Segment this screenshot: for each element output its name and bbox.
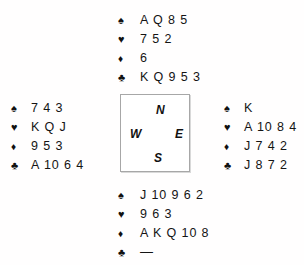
hand-west-diamonds: 9 5 3 <box>31 140 63 153</box>
diamond-icon: ♦ <box>118 54 133 64</box>
club-icon: ♣ <box>118 247 133 258</box>
hand-north-hearts-row: ♥ 7 5 2 <box>118 30 201 49</box>
hand-east-spades-row: ♠ K <box>224 99 297 118</box>
bridge-deal-diagram: ♠ A Q 8 5 ♥ 7 5 2 ♦ 6 ♣ K Q 9 5 3 ♠ 7 4 … <box>0 0 304 265</box>
hand-east-spades: K <box>244 102 253 115</box>
heart-icon: ♥ <box>118 34 133 45</box>
spade-icon: ♠ <box>118 15 133 26</box>
diamond-icon: ♦ <box>11 142 26 152</box>
compass-label-north: N <box>156 104 165 116</box>
compass-label-south: S <box>154 152 162 164</box>
diamond-icon: ♦ <box>118 229 133 239</box>
club-icon: ♣ <box>11 160 26 171</box>
hand-north-diamonds: 6 <box>140 52 148 65</box>
hand-west-clubs-row: ♣ A 10 6 4 <box>11 156 84 175</box>
hand-east-diamonds: J 7 4 2 <box>244 140 288 153</box>
hand-east: ♠ K ♥ A 10 8 4 ♦ J 7 4 2 ♣ J 8 7 2 <box>224 99 297 175</box>
spade-icon: ♠ <box>118 190 133 201</box>
compass-box: N W E S <box>120 94 190 172</box>
hand-west-diamonds-row: ♦ 9 5 3 <box>11 137 84 156</box>
hand-south: ♠ J 10 9 6 2 ♥ 9 6 3 ♦ A K Q 10 8 ♣ — <box>118 186 209 262</box>
hand-west-spades: 7 4 3 <box>31 102 63 115</box>
club-icon: ♣ <box>118 72 133 83</box>
hand-west-hearts-row: ♥ K Q J <box>11 118 84 137</box>
hand-north-hearts: 7 5 2 <box>140 33 172 46</box>
hand-west-hearts: K Q J <box>31 121 67 134</box>
hand-north-spades-row: ♠ A Q 8 5 <box>118 11 201 30</box>
heart-icon: ♥ <box>118 209 133 220</box>
hand-north: ♠ A Q 8 5 ♥ 7 5 2 ♦ 6 ♣ K Q 9 5 3 <box>118 11 201 87</box>
hand-south-clubs: — <box>140 245 153 258</box>
heart-icon: ♥ <box>11 122 26 133</box>
hand-east-clubs: J 8 7 2 <box>244 159 288 172</box>
hand-east-hearts: A 10 8 4 <box>244 121 297 134</box>
hand-south-spades: J 10 9 6 2 <box>140 189 204 202</box>
hand-west: ♠ 7 4 3 ♥ K Q J ♦ 9 5 3 ♣ A 10 6 4 <box>11 99 84 175</box>
hand-east-diamonds-row: ♦ J 7 4 2 <box>224 137 297 156</box>
compass-label-east: E <box>175 128 183 140</box>
spade-icon: ♠ <box>224 103 239 114</box>
hand-south-hearts: 9 6 3 <box>140 208 172 221</box>
spade-icon: ♠ <box>11 103 26 114</box>
hand-south-clubs-row: ♣ — <box>118 243 209 262</box>
hand-east-clubs-row: ♣ J 8 7 2 <box>224 156 297 175</box>
diamond-icon: ♦ <box>224 142 239 152</box>
hand-north-clubs-row: ♣ K Q 9 5 3 <box>118 68 201 87</box>
compass-label-west: W <box>130 128 141 140</box>
club-icon: ♣ <box>224 160 239 171</box>
hand-south-diamonds: A K Q 10 8 <box>140 227 209 240</box>
hand-north-diamonds-row: ♦ 6 <box>118 49 201 68</box>
hand-south-hearts-row: ♥ 9 6 3 <box>118 205 209 224</box>
hand-south-diamonds-row: ♦ A K Q 10 8 <box>118 224 209 243</box>
hand-south-spades-row: ♠ J 10 9 6 2 <box>118 186 209 205</box>
hand-north-spades: A Q 8 5 <box>140 14 188 27</box>
hand-east-hearts-row: ♥ A 10 8 4 <box>224 118 297 137</box>
hand-north-clubs: K Q 9 5 3 <box>140 71 201 84</box>
hand-west-clubs: A 10 6 4 <box>31 159 84 172</box>
heart-icon: ♥ <box>224 122 239 133</box>
hand-west-spades-row: ♠ 7 4 3 <box>11 99 84 118</box>
